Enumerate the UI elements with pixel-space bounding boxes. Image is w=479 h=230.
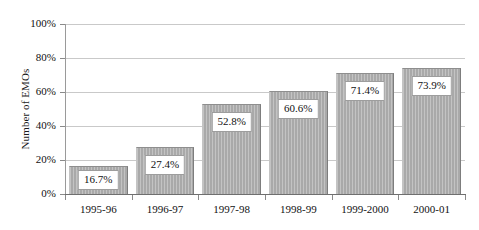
x-tick-label: 1999-2000 [332, 203, 399, 215]
bar-value-label: 27.4% [145, 155, 185, 175]
y-tick-label: 80% [8, 51, 56, 63]
bar-group: 27.4% [132, 24, 199, 194]
x-tick-mark [65, 195, 66, 200]
x-tick-label: 1997-98 [198, 203, 265, 215]
x-tick-mark [465, 195, 466, 200]
bars-container: 16.7%27.4%52.8%60.6%71.4%73.9% [65, 24, 465, 194]
y-tick-label: 60% [8, 85, 56, 97]
bar-group: 73.9% [398, 24, 465, 194]
x-tick-label: 1996-97 [132, 203, 199, 215]
bar-value-label: 52.8% [211, 112, 251, 132]
y-tick-label: 40% [8, 119, 56, 131]
y-tick-label: 0% [8, 187, 56, 199]
x-tick-label: 1995-96 [65, 203, 132, 215]
x-tick-mark [265, 195, 266, 200]
x-tick-label: 2000-01 [398, 203, 465, 215]
x-tick-mark [132, 195, 133, 200]
bar-group: 52.8% [198, 24, 265, 194]
bar-value-label: 16.7% [78, 170, 118, 190]
bar-chart: Number of EMOs 0%20%40%60%80%100% 16.7%2… [0, 0, 479, 230]
y-tick-label: 100% [8, 17, 56, 29]
x-tick-mark [332, 195, 333, 200]
y-tick-label: 20% [8, 153, 56, 165]
x-tick-mark [398, 195, 399, 200]
x-tick-label: 1998-99 [265, 203, 332, 215]
bar-value-label: 60.6% [278, 99, 318, 119]
x-tick-mark [198, 195, 199, 200]
bar-value-label: 71.4% [345, 81, 385, 101]
bar-group: 16.7% [65, 24, 132, 194]
bar-group: 71.4% [332, 24, 399, 194]
bar-value-label: 73.9% [411, 76, 451, 96]
bar-group: 60.6% [265, 24, 332, 194]
